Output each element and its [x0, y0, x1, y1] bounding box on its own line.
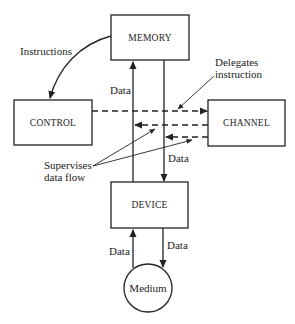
- instructions-edge: Instructions: [20, 36, 111, 98]
- device-label: DEVICE: [131, 200, 167, 210]
- control-node: CONTROL: [14, 100, 92, 145]
- delegates-annotation: Delegates instruction: [178, 56, 263, 109]
- data-up-edge: Data: [110, 62, 133, 182]
- memory-label: MEMORY: [128, 33, 171, 43]
- data-medium-down-label: Data: [167, 239, 188, 251]
- instructions-label: Instructions: [20, 45, 72, 57]
- data-down-label: Data: [168, 152, 189, 164]
- data-down-edge: Data: [164, 60, 189, 181]
- io-architecture-diagram: MEMORY CONTROL CHANNEL DEVICE Medium Ins…: [0, 0, 295, 324]
- medium-to-device-edge: Data: [109, 230, 133, 268]
- device-to-medium-edge: Data: [163, 228, 188, 267]
- data-medium-up-label: Data: [109, 245, 130, 257]
- medium-node: Medium: [124, 264, 172, 312]
- channel-label: CHANNEL: [223, 118, 270, 128]
- memory-node: MEMORY: [111, 15, 189, 60]
- medium-label: Medium: [129, 282, 167, 294]
- delegates-label-line1: Delegates: [215, 56, 258, 68]
- supervises-label-line1: Supervises: [44, 159, 92, 171]
- control-label: CONTROL: [30, 118, 76, 128]
- channel-node: CHANNEL: [208, 100, 285, 146]
- device-node: DEVICE: [111, 182, 188, 228]
- data-up-label: Data: [110, 84, 131, 96]
- delegates-label-line2: instruction: [215, 68, 263, 80]
- supervises-label-line2: data flow: [44, 171, 85, 183]
